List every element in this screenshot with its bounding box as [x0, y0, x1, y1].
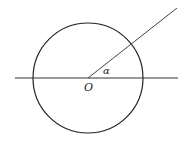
center-label-o: O	[84, 81, 93, 94]
diagram-canvas: O α	[0, 0, 188, 144]
circle-angle-diagram: O α	[0, 0, 188, 144]
angle-ray	[88, 8, 177, 78]
angle-label-alpha: α	[103, 65, 110, 76]
